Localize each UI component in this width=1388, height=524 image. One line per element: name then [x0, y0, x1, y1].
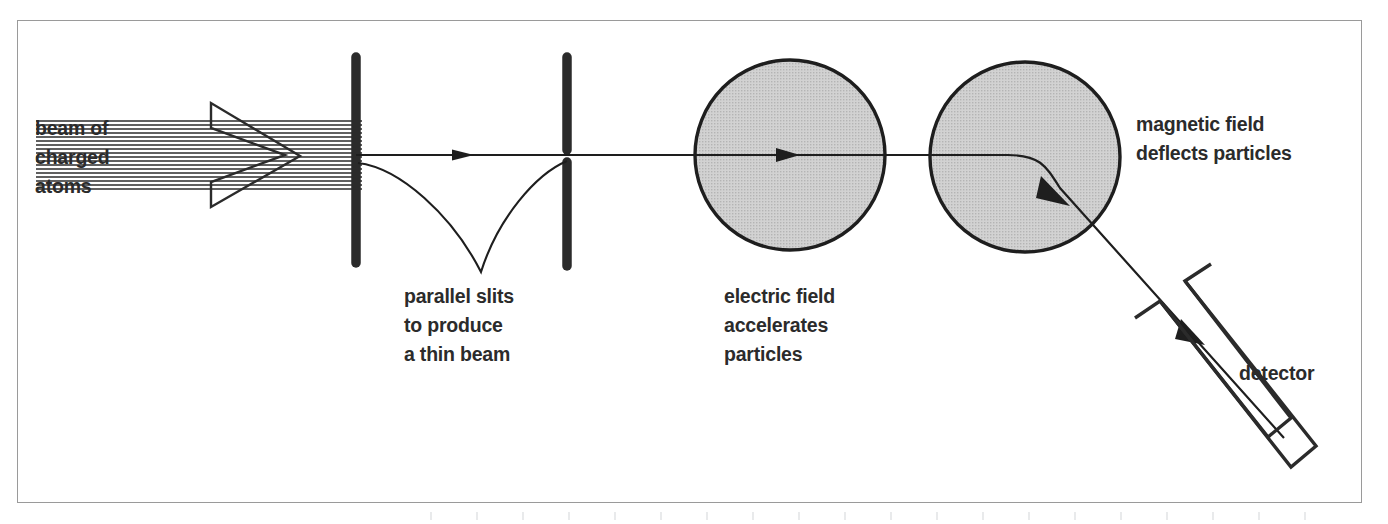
beam-arrowhead-outline	[211, 103, 300, 207]
mass-spectrometer-diagram	[0, 0, 1388, 524]
label-magnetic-field: magnetic field deflects particles	[1136, 110, 1292, 168]
label-detector: detector	[1239, 359, 1314, 388]
page-text-smudge	[430, 512, 1330, 520]
beam-arrow-after-slit-icon	[452, 150, 474, 161]
slits-leader-line	[358, 161, 567, 272]
label-electric-field: electric field accelerates particles	[724, 282, 835, 369]
label-beam-of-charged-atoms: beam of charged atoms	[35, 114, 109, 201]
figure-page: beam of charged atoms parallel slits to …	[0, 0, 1388, 524]
label-parallel-slits: parallel slits to produce a thin beam	[404, 282, 514, 369]
